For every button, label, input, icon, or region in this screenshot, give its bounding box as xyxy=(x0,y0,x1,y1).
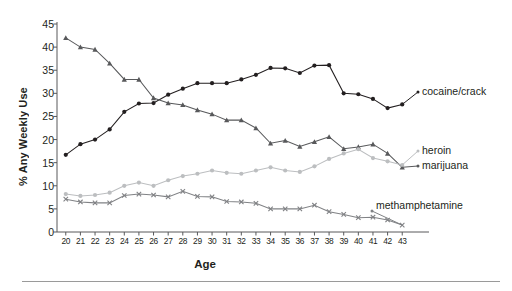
data-point xyxy=(108,191,112,195)
data-point xyxy=(342,151,346,155)
series-marijuana xyxy=(63,35,405,169)
y-axis-tick-labels: 051015202530354045 xyxy=(30,0,54,291)
y-tick-35: 35 xyxy=(42,64,54,76)
x-tick-40: 40 xyxy=(354,236,363,246)
data-point xyxy=(166,178,170,182)
x-tick-36: 36 xyxy=(296,236,305,246)
y-tick-45: 45 xyxy=(42,18,54,30)
x-tick-30: 30 xyxy=(208,236,217,246)
data-point xyxy=(210,81,214,85)
x-tick-41: 41 xyxy=(369,236,378,246)
chart-figure: % Any Weekly Use 051015202530354045 Age … xyxy=(0,0,512,291)
data-point xyxy=(385,159,389,163)
x-tick-37: 37 xyxy=(310,236,319,246)
data-point xyxy=(108,127,112,131)
series-label-cocaine: cocaine/crack xyxy=(422,85,486,97)
series-line xyxy=(66,191,402,225)
data-point xyxy=(370,142,375,147)
x-tick-24: 24 xyxy=(120,236,129,246)
x-tick-26: 26 xyxy=(149,236,158,246)
data-point xyxy=(327,157,331,161)
leader-endpoint xyxy=(417,150,420,153)
series-label-marijuana: marijuana xyxy=(422,159,468,171)
data-point xyxy=(371,156,375,160)
series-line xyxy=(66,149,402,196)
data-point xyxy=(93,193,97,197)
data-point xyxy=(298,71,302,75)
data-point xyxy=(298,170,302,174)
data-point xyxy=(64,192,68,196)
data-point xyxy=(254,168,258,172)
data-point xyxy=(283,66,287,70)
x-tick-42: 42 xyxy=(383,236,392,246)
y-tick-0: 0 xyxy=(48,226,54,238)
data-point xyxy=(195,172,199,176)
data-point xyxy=(371,97,375,101)
series-heroin xyxy=(64,147,405,198)
leader-line xyxy=(402,151,418,165)
x-axis-title: Age xyxy=(0,258,410,270)
series-cocaine-crack xyxy=(64,63,405,157)
y-tick-25: 25 xyxy=(42,110,54,122)
data-point xyxy=(342,91,346,95)
data-point xyxy=(254,73,258,77)
data-point xyxy=(385,151,390,156)
x-tick-23: 23 xyxy=(105,236,114,246)
data-point xyxy=(63,35,68,40)
leader-endpoint xyxy=(417,165,420,168)
x-tick-38: 38 xyxy=(325,236,334,246)
data-point xyxy=(268,66,272,70)
x-tick-20: 20 xyxy=(61,236,70,246)
data-point xyxy=(122,184,126,188)
x-tick-35: 35 xyxy=(281,236,290,246)
x-tick-39: 39 xyxy=(339,236,348,246)
series-methamphetamine xyxy=(64,189,405,227)
x-tick-22: 22 xyxy=(91,236,100,246)
data-point xyxy=(312,64,316,68)
x-tick-21: 21 xyxy=(76,236,85,246)
data-point xyxy=(78,142,82,146)
data-point xyxy=(327,63,331,67)
data-point xyxy=(253,125,258,130)
data-point xyxy=(210,168,214,172)
y-tick-40: 40 xyxy=(42,41,54,53)
data-point xyxy=(326,134,331,139)
data-point xyxy=(225,81,229,85)
leader-line xyxy=(402,166,418,167)
leader-line xyxy=(402,92,418,104)
series-line xyxy=(66,65,402,155)
x-tick-27: 27 xyxy=(164,236,173,246)
y-tick-10: 10 xyxy=(42,180,54,192)
data-point xyxy=(181,174,185,178)
data-point xyxy=(137,101,141,105)
data-point xyxy=(64,153,68,157)
data-point xyxy=(181,87,185,91)
data-point xyxy=(268,165,272,169)
data-point xyxy=(225,171,229,175)
data-point xyxy=(356,92,360,96)
x-tick-33: 33 xyxy=(252,236,261,246)
data-point xyxy=(239,172,243,176)
x-tick-32: 32 xyxy=(237,236,246,246)
y-tick-15: 15 xyxy=(42,157,54,169)
series-label-heroin: heroin xyxy=(422,144,451,156)
leader-endpoint xyxy=(417,91,420,94)
data-point xyxy=(312,164,316,168)
data-point xyxy=(78,194,82,198)
series-label-methamphetamine: methamphetamine xyxy=(376,199,463,211)
x-tick-34: 34 xyxy=(266,236,275,246)
series-line xyxy=(66,38,402,167)
x-tick-43: 43 xyxy=(398,236,407,246)
y-tick-5: 5 xyxy=(48,203,54,215)
data-point xyxy=(239,77,243,81)
data-point xyxy=(356,147,360,151)
y-tick-30: 30 xyxy=(42,87,54,99)
x-tick-31: 31 xyxy=(222,236,231,246)
data-point xyxy=(137,180,141,184)
data-point xyxy=(195,81,199,85)
data-point xyxy=(151,101,155,105)
x-tick-29: 29 xyxy=(193,236,202,246)
data-point xyxy=(283,138,288,143)
data-point xyxy=(151,184,155,188)
data-point xyxy=(166,93,170,97)
